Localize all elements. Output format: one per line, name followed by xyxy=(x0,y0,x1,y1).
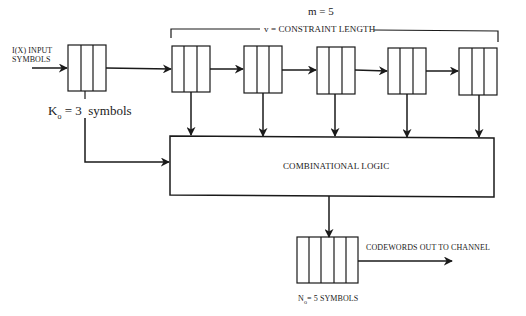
output-label: CODEWORDS OUT TO CHANNEL xyxy=(366,244,490,252)
constraint-bracket-left xyxy=(171,29,260,38)
input-label-line1: I(X) INPUT xyxy=(12,47,52,55)
constraint-length-label: v = CONSTRAINT LENGTH xyxy=(264,25,375,34)
m-label: m = 5 xyxy=(308,6,334,17)
shift-stage-1 xyxy=(172,46,210,92)
output-register-label: No= 5 SYMBOLS xyxy=(298,295,358,305)
input-label-line2: SYMBOLS xyxy=(12,56,51,64)
shift-stage-2 xyxy=(244,46,282,93)
shift-stage-4 xyxy=(388,48,426,94)
shift-stage-3 xyxy=(317,47,355,94)
shift-stage-5 xyxy=(459,48,497,95)
input-register xyxy=(68,45,106,91)
combinational-logic-label: COMBINATIONAL LOGIC xyxy=(283,162,389,171)
input-register-label: Ko = 3 symbols xyxy=(48,104,132,121)
constraint-bracket-right xyxy=(374,30,498,42)
encoder-diagram xyxy=(0,0,526,316)
output-register xyxy=(297,237,358,283)
